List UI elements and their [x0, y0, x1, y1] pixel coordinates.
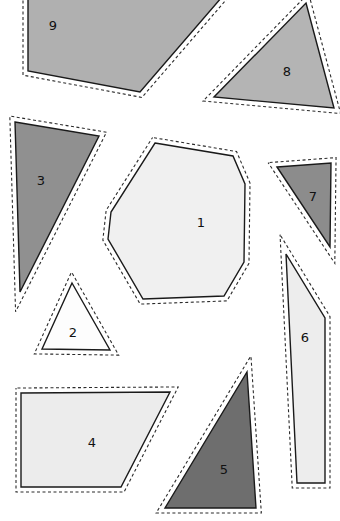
polygon-scene: 123456789: [0, 0, 340, 521]
polygon-label-8: 8: [283, 64, 291, 79]
polygon-label-4: 4: [88, 435, 96, 450]
polygon-label-1: 1: [197, 215, 205, 230]
polygon-label-2: 2: [69, 325, 77, 340]
polygon-label-6: 6: [301, 330, 309, 345]
shape-canvas-container: 123456789: [0, 0, 340, 521]
polygon-label-9: 9: [49, 18, 57, 33]
polygon-label-5: 5: [220, 462, 228, 477]
polygon-label-3: 3: [37, 173, 45, 188]
polygon-label-7: 7: [309, 189, 317, 204]
